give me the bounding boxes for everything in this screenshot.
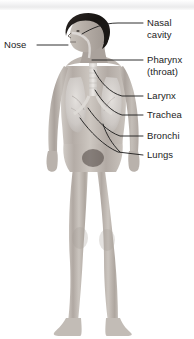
label-nasal-cavity: Nasal cavity bbox=[147, 17, 172, 40]
label-lungs: Lungs bbox=[147, 149, 173, 161]
right-foot bbox=[105, 318, 131, 336]
label-larynx: Larynx bbox=[147, 90, 176, 102]
label-nasal-cavity-line-1: Nasal bbox=[147, 17, 172, 29]
label-larynx-line-1: Larynx bbox=[147, 90, 176, 102]
left-hand bbox=[47, 151, 58, 172]
human-body-figure bbox=[0, 0, 194, 339]
label-lungs-line-1: Lungs bbox=[147, 149, 173, 161]
label-trachea: Trachea bbox=[147, 109, 182, 121]
left-foot bbox=[54, 318, 82, 336]
label-nose-line-1: Nose bbox=[4, 39, 26, 51]
respiratory-system-diagram: Nose Nasal cavity Pharynx (throat) Laryn… bbox=[0, 0, 194, 339]
label-pharynx-line-1: Pharynx bbox=[147, 54, 182, 66]
label-bronchi: Bronchi bbox=[147, 130, 180, 142]
pubic-region bbox=[82, 149, 104, 167]
label-pharynx-line-2: (throat) bbox=[147, 66, 182, 78]
label-bronchi-line-1: Bronchi bbox=[147, 130, 180, 142]
eye bbox=[76, 30, 79, 32]
label-pharynx: Pharynx (throat) bbox=[147, 54, 182, 77]
label-trachea-line-1: Trachea bbox=[147, 109, 182, 121]
right-hand bbox=[128, 151, 139, 172]
label-nose: Nose bbox=[4, 39, 26, 51]
label-nasal-cavity-line-2: cavity bbox=[147, 29, 172, 41]
